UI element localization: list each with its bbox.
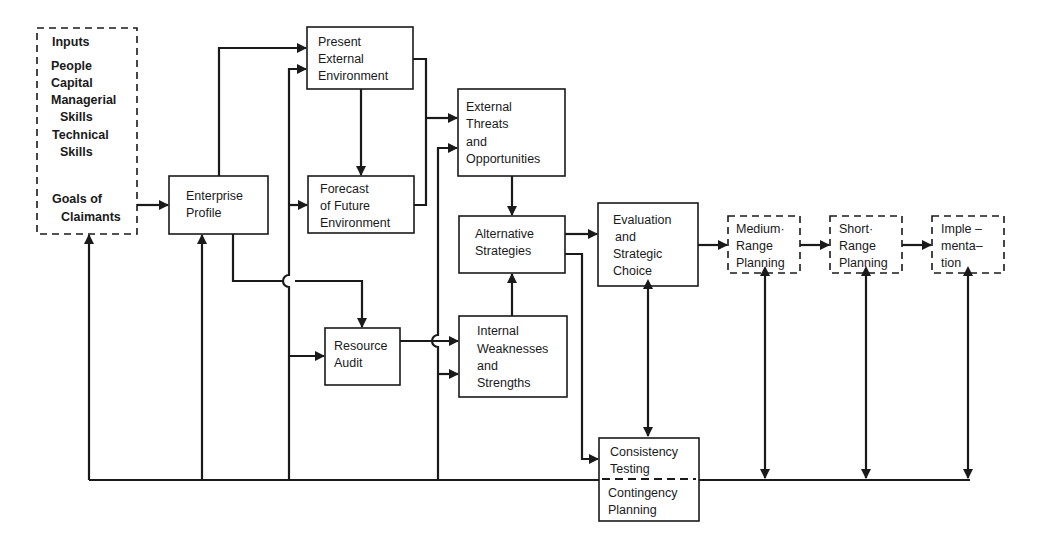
node-label: Planning xyxy=(839,256,888,270)
node-label: Resource xyxy=(334,339,388,353)
alternative-strategies-node: Alternative Strategies xyxy=(459,216,565,273)
node-label: and xyxy=(615,230,636,244)
arrow-enterprise-to-resource xyxy=(233,234,362,327)
inputs-goals: Goals of xyxy=(52,192,103,206)
node-label: menta– xyxy=(941,239,983,253)
node-label: Strategies xyxy=(475,244,531,258)
inputs-item: Technical xyxy=(52,128,109,142)
short-range-planning-node: Short· Range Planning xyxy=(830,216,902,273)
inputs-item: Skills xyxy=(60,145,93,159)
node-label: Audit xyxy=(334,356,363,370)
node-label: and xyxy=(477,359,498,373)
forecast-future-environment-node: Forecast of Future Environment xyxy=(308,176,414,233)
node-label: Range xyxy=(839,239,876,253)
inputs-item: Skills xyxy=(60,110,93,124)
node-label: Environment xyxy=(318,69,389,83)
node-label: and xyxy=(466,135,487,149)
node-label: Consistency xyxy=(610,445,679,459)
internal-weaknesses-strengths-node: Internal Weaknesses and Strengths xyxy=(459,316,567,397)
inputs-title: Inputs xyxy=(52,35,90,49)
node-label: Profile xyxy=(186,206,221,220)
feedback-to-external-threats xyxy=(432,148,457,480)
merge-line-external xyxy=(413,59,426,205)
node-label: of Future xyxy=(320,199,370,213)
evaluation-strategic-choice-node: Evaluation and Strategic Choice xyxy=(598,203,698,286)
node-label: Planning xyxy=(608,503,657,517)
node-label: Forecast xyxy=(320,182,369,196)
node-label: Internal xyxy=(477,324,519,338)
inputs-node: Inputs People Capital Managerial Skills … xyxy=(37,28,137,234)
strategic-planning-flow-diagram: Inputs People Capital Managerial Skills … xyxy=(0,0,1043,551)
arrow-alternatives-to-consistency xyxy=(565,254,598,459)
node-label: External xyxy=(466,100,512,114)
inputs-item: Managerial xyxy=(51,93,116,107)
node-label: Evaluation xyxy=(613,213,671,227)
node-label: Strategic xyxy=(613,247,662,261)
external-threats-opportunities-node: External Threats and Opportunities xyxy=(458,89,565,176)
node-label: Environment xyxy=(320,216,391,230)
node-label: tion xyxy=(941,256,961,270)
node-label: Threats xyxy=(466,117,508,131)
inputs-goals: Claimants xyxy=(61,210,121,224)
node-label: Contingency xyxy=(608,486,678,500)
node-label: External xyxy=(318,52,364,66)
node-label: Short· xyxy=(839,222,873,236)
implementation-node: Imple – menta– tion xyxy=(932,216,1004,273)
node-label: Strengths xyxy=(477,376,531,390)
inputs-item: Capital xyxy=(51,76,93,90)
node-label: Present xyxy=(318,35,362,49)
node-label: Choice xyxy=(613,264,652,278)
node-label: Opportunities xyxy=(466,152,540,166)
node-label: Weaknesses xyxy=(477,342,548,356)
inputs-item: People xyxy=(51,59,92,73)
node-label: Medium· xyxy=(736,222,785,236)
node-label: Alternative xyxy=(475,227,534,241)
present-external-environment-node: Present External Environment xyxy=(307,27,413,89)
feedback-to-present-external xyxy=(283,69,306,480)
arrow-enterprise-to-present xyxy=(219,48,306,176)
node-label: Enterprise xyxy=(186,189,243,203)
node-label: Range xyxy=(736,239,773,253)
enterprise-profile-node: Enterprise Profile xyxy=(169,176,268,234)
node-label: Imple – xyxy=(941,222,982,236)
resource-audit-node: Resource Audit xyxy=(325,328,400,385)
consistency-contingency-node: Consistency Testing Contingency Planning xyxy=(599,438,699,521)
node-label: Planning xyxy=(736,256,785,270)
node-label: Testing xyxy=(610,462,650,476)
medium-range-planning-node: Medium· Range Planning xyxy=(728,216,800,273)
